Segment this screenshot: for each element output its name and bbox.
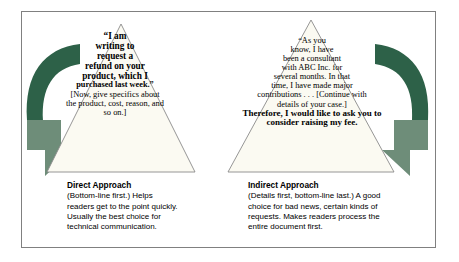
right-detail-line-3: been a consultant [242,54,382,63]
right-triangle-text: “As you know, I have been a consultant w… [242,36,382,128]
left-quote-line-6: purchased last week.” [52,81,178,90]
left-detail-line-3: so on.] [52,108,178,117]
left-triangle-text: “I am writing to request a refund on you… [52,31,178,117]
left-quote-line-3: request a [52,51,178,61]
left-quote-line-4: refund on your [52,61,178,71]
right-detail-line-5: several months. In that [242,72,382,81]
left-caption-line-3: Usually the best choice for [67,212,217,222]
left-caption: Direct Approach (Bottom-line first.) Hel… [67,180,217,233]
right-detail-line-6: time, I have made major [242,81,382,90]
right-caption-title: Indirect Approach [248,180,428,191]
right-caption-line-2: choice for bad news, certain kinds of [248,202,428,212]
right-caption: Indirect Approach (Details first, bottom… [248,180,428,233]
left-caption-line-4: technical communication. [67,222,217,232]
left-caption-title: Direct Approach [67,180,217,191]
figure-container: “I am writing to request a refund on you… [0,0,459,262]
right-detail-line-7: contributions . . . [Continue with [242,90,382,99]
right-caption-line-3: requests. Makes readers process the [248,212,428,222]
right-caption-line-4: entire document first. [248,222,428,232]
right-detail-line-2: know, I have [242,45,382,54]
left-caption-line-1: (Bottom-line first.) Helps [67,191,217,201]
left-detail-line-2: the product, cost, reason, and [52,99,178,108]
right-conclusion-line-2: consider raising my fee. [242,118,382,128]
left-quote-line-2: writing to [52,41,178,51]
left-quote-line-1: “I am [52,31,178,41]
left-caption-line-2: readers get to the point quickly. [67,202,217,212]
right-caption-line-1: (Details first, bottom-line last.) A goo… [248,191,428,201]
right-detail-line-1: “As you [242,36,382,45]
right-detail-line-4: with ABC Inc. for [242,63,382,72]
left-detail-line-1: [Now, give specifics about [52,90,178,99]
